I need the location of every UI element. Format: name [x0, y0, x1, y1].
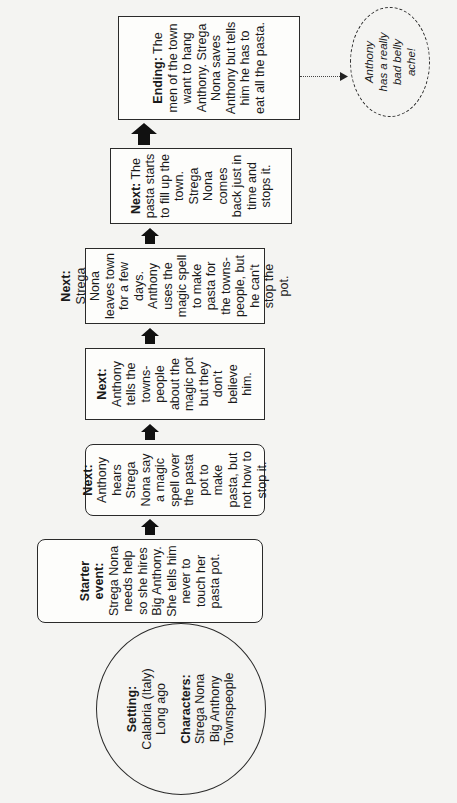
- setting-place: Calabria (Italy): [140, 668, 155, 749]
- step-text: Anthony tells the towns-people about the…: [110, 357, 255, 411]
- step-label: Starter event:: [78, 561, 107, 601]
- arrow-icon-large: [131, 123, 157, 145]
- arrow-icon: [141, 424, 159, 440]
- ending-box: Ending: The men of the town want to hang…: [118, 16, 300, 120]
- step-text: The pasta starts to fill up the town. St…: [129, 154, 274, 219]
- step-label: Next:: [59, 270, 73, 301]
- step-text: Strega Nona leaves town for a few days. …: [74, 253, 291, 319]
- setting-label: Setting:: [125, 668, 140, 749]
- character-3: Townspeople: [222, 673, 237, 746]
- story-map-diagram: Setting: Calabria (Italy) Long ago Chara…: [0, 0, 457, 803]
- character-1: Strega Nona: [193, 673, 208, 746]
- step-label: Next:: [95, 368, 109, 399]
- arrow-icon: [141, 228, 159, 244]
- character-2: Big Anthony: [208, 673, 223, 746]
- dotted-connector: [300, 76, 344, 77]
- characters-label: Characters:: [179, 673, 194, 746]
- setting-time: Long ago: [154, 668, 169, 749]
- outcome-text: Anthony has a really bad belly ache!: [362, 31, 418, 93]
- step-text: Strega Nona needs help so she hires Big …: [107, 545, 223, 617]
- step-label: Ending:: [151, 57, 165, 104]
- step-label: Next:: [81, 464, 95, 495]
- next-event-box-1: Next:Anthony hears Strega Nona say a mag…: [85, 444, 265, 516]
- characters-group: Characters: Strega Nona Big Anthony Town…: [179, 673, 237, 746]
- outcome-ellipse: Anthony has a really bad belly ache!: [350, 7, 430, 117]
- arrow-icon: [141, 328, 159, 344]
- arrowhead-icon: [340, 72, 348, 81]
- next-event-box-3: Next:Strega Nona leaves town for a few d…: [85, 248, 265, 324]
- setting-group: Setting: Calabria (Italy) Long ago: [125, 668, 169, 749]
- starter-event-box: Starter event: Strega Nona needs help so…: [37, 539, 263, 623]
- next-event-box-2: Next:Anthony tells the towns-people abou…: [85, 348, 265, 420]
- next-event-box-4: Next: The pasta starts to fill up the to…: [110, 148, 292, 224]
- step-text: Anthony hears Strega Nona say a magic sp…: [95, 451, 269, 509]
- step-label: Next:: [129, 183, 143, 214]
- step-text: The men of the town want to hang Anthony…: [151, 22, 267, 114]
- setting-ellipse: Setting: Calabria (Italy) Long ago Chara…: [96, 623, 266, 795]
- arrow-icon: [141, 519, 159, 535]
